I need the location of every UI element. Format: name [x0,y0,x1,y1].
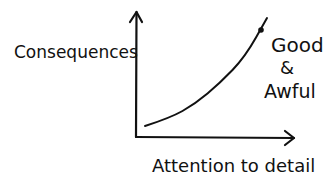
trend-curve [145,18,267,126]
y-axis [130,12,142,137]
annotation-label-awful: Awful [264,80,316,102]
annotation-label-ampersand: & [280,57,294,78]
annotation-label-good: Good [271,33,324,57]
y-axis-label: Consequences [14,42,138,62]
sketch-chart: Consequences Attention to detail Good & … [0,0,334,190]
x-axis [136,131,294,145]
x-axis-label: Attention to detail [152,155,315,176]
annotation-dot [258,27,264,33]
